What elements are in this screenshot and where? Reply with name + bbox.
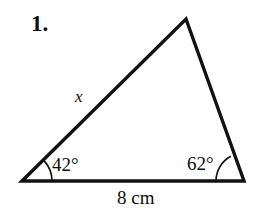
angle-label-left: 42° bbox=[52, 155, 79, 174]
base-length-label: 8 cm bbox=[117, 188, 154, 207]
triangle-figure: 1. x 42° 62° 8 cm bbox=[0, 0, 262, 221]
problem-number: 1. bbox=[31, 12, 48, 35]
angle-label-right: 62° bbox=[187, 154, 214, 173]
angle-arc-right bbox=[216, 156, 231, 181]
angle-arc-left bbox=[44, 161, 52, 181]
side-label-x: x bbox=[75, 88, 83, 105]
